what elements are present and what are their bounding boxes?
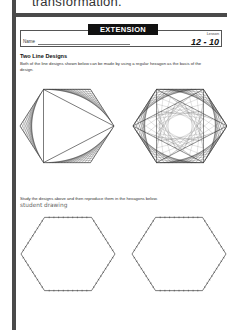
triangle-line-design: [20, 89, 114, 162]
blank-hexagon-left[interactable]: [21, 216, 115, 291]
blank-hexagon-right[interactable]: [132, 216, 226, 291]
star-line-design: [133, 89, 227, 162]
student-drawing-note: student drawing: [20, 202, 67, 208]
line-design-figures: [0, 0, 227, 330]
instruction-text: Study the designs above and then reprodu…: [20, 196, 220, 202]
